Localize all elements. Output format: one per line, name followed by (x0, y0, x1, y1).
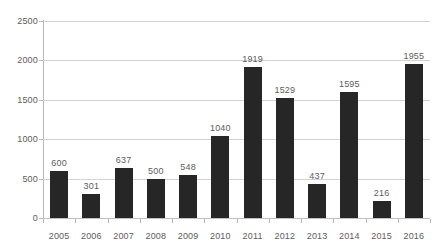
x-tick-mark (430, 219, 431, 223)
bar[interactable] (115, 168, 133, 218)
bar-value-label: 301 (75, 182, 107, 191)
y-tick-label: 2500 (0, 17, 38, 26)
bar[interactable] (50, 171, 68, 218)
x-tick-label: 2016 (398, 231, 430, 241)
bar-chart: 05001000150020002500 6003016375005481040… (0, 0, 441, 251)
x-tick-label: 2008 (140, 231, 172, 241)
x-tick-mark (269, 219, 270, 223)
x-tick-label: 2013 (301, 231, 333, 241)
bar-column[interactable]: 600 (43, 21, 75, 218)
bar-value-label: 1529 (269, 86, 301, 95)
bar-column[interactable]: 1595 (333, 21, 365, 218)
bar-column[interactable]: 637 (108, 21, 140, 218)
bar-value-label: 500 (140, 167, 172, 176)
x-tick-label: 2012 (269, 231, 301, 241)
x-tick-mark (43, 219, 44, 223)
y-tick-label: 0 (0, 214, 38, 223)
bar-value-label: 437 (301, 172, 333, 181)
x-tick-mark (75, 219, 76, 223)
plot-area: 6003016375005481040191915294371595216195… (43, 21, 430, 218)
x-tick-mark (366, 219, 367, 223)
bar-value-label: 1595 (333, 80, 365, 89)
x-tick-label: 2005 (43, 231, 75, 241)
y-tick-label: 2000 (0, 56, 38, 65)
bar[interactable] (405, 64, 423, 218)
bar-column[interactable]: 1955 (398, 21, 430, 218)
bar[interactable] (308, 184, 326, 218)
x-tick-mark (140, 219, 141, 223)
y-tick-label: 500 (0, 175, 38, 184)
x-tick-label: 2006 (75, 231, 107, 241)
bar-column[interactable]: 1040 (204, 21, 236, 218)
x-tick-label: 2007 (108, 231, 140, 241)
bar-column[interactable]: 1529 (269, 21, 301, 218)
y-tick-label: 1000 (0, 135, 38, 144)
x-tick-mark (108, 219, 109, 223)
bar[interactable] (340, 92, 358, 218)
bar-value-label: 1919 (237, 55, 269, 64)
bar[interactable] (276, 98, 294, 218)
bar-value-label: 548 (172, 163, 204, 172)
bar[interactable] (373, 201, 391, 218)
bar-value-label: 1040 (204, 124, 236, 133)
bar-column[interactable]: 500 (140, 21, 172, 218)
bar-column[interactable]: 1919 (237, 21, 269, 218)
bar-column[interactable]: 548 (172, 21, 204, 218)
bar[interactable] (244, 67, 262, 218)
bar-column[interactable]: 301 (75, 21, 107, 218)
x-tick-label: 2010 (204, 231, 236, 241)
x-tick-label: 2011 (237, 231, 269, 241)
x-tick-label: 2014 (333, 231, 365, 241)
x-tick-mark (172, 219, 173, 223)
x-tick-mark (237, 219, 238, 223)
x-tick-mark (398, 219, 399, 223)
bar[interactable] (147, 179, 165, 218)
x-tick-mark (301, 219, 302, 223)
bar-value-label: 637 (108, 156, 140, 165)
x-tick-mark (333, 219, 334, 223)
bar-value-label: 600 (43, 159, 75, 168)
bar[interactable] (211, 136, 229, 218)
x-tick-mark (204, 219, 205, 223)
y-tick-label: 1500 (0, 96, 38, 105)
bar-value-label: 1955 (398, 52, 430, 61)
bar-column[interactable]: 437 (301, 21, 333, 218)
bar-column[interactable]: 216 (366, 21, 398, 218)
x-tick-label: 2009 (172, 231, 204, 241)
x-tick-label: 2015 (366, 231, 398, 241)
bar[interactable] (82, 194, 100, 218)
bar-value-label: 216 (366, 189, 398, 198)
bar[interactable] (179, 175, 197, 218)
